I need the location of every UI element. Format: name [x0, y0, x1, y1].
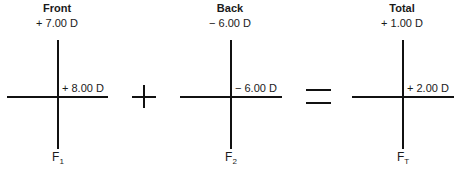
total-vertical-meridian	[402, 40, 404, 149]
total-horizontal-power: + 2.00 D	[407, 82, 449, 94]
front-title: Front	[17, 2, 97, 14]
total-vertical-power: + 1.00 D	[362, 17, 442, 29]
total-label-subscript: T	[404, 157, 409, 166]
plus-vertical-bar	[143, 85, 145, 108]
total-label: FT	[388, 150, 418, 166]
front-label-subscript: 1	[59, 157, 63, 166]
back-vertical-meridian	[230, 40, 232, 149]
total-title: Total	[362, 2, 442, 14]
back-vertical-power: − 6.00 D	[190, 17, 270, 29]
equals-bottom-bar	[306, 102, 331, 104]
equals-top-bar	[306, 89, 331, 91]
front-vertical-meridian	[57, 40, 59, 149]
back-horizontal-power: − 6.00 D	[235, 82, 277, 94]
front-horizontal-power: + 8.00 D	[62, 82, 104, 94]
front-label: F1	[43, 150, 73, 166]
front-vertical-power: + 7.00 D	[17, 17, 97, 29]
back-title: Back	[190, 2, 270, 14]
back-label-subscript: 2	[232, 157, 236, 166]
total-horizontal-meridian	[352, 96, 454, 98]
back-horizontal-meridian	[180, 96, 282, 98]
front-horizontal-meridian	[7, 96, 108, 98]
back-label: F2	[216, 150, 246, 166]
